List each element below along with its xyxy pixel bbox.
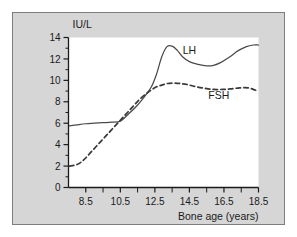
x-tick-label: 8.5 [79,196,93,207]
y-axis-title: IU/L [73,18,92,30]
y-tick-label: 6 [55,118,61,129]
x-tick-label: 16.5 [214,196,234,207]
x-axis-title: Bone age (years) [178,210,259,222]
y-tick-label: 2 [55,161,61,172]
x-tick-label: 18.5 [249,196,269,207]
x-tick-label: 10.5 [111,196,131,207]
y-tick-label: 12 [49,54,61,65]
x-tick-label: 14.5 [180,196,200,207]
series-label-lh: LH [183,44,196,56]
y-tick-label: 4 [55,139,61,150]
y-tick-label: 10 [49,75,61,86]
x-tick-label: 12.5 [145,196,165,207]
series-label-fsh: FSH [208,89,229,101]
chart-plot: 024681012148.510.512.514.516.518.5IU/LBo… [0,0,297,237]
y-tick-label: 14 [49,32,61,43]
y-tick-label: 8 [55,96,61,107]
chart-figure: 024681012148.510.512.514.516.518.5IU/LBo… [0,0,297,237]
y-tick-label: 0 [55,182,61,193]
plot-background [69,38,259,188]
